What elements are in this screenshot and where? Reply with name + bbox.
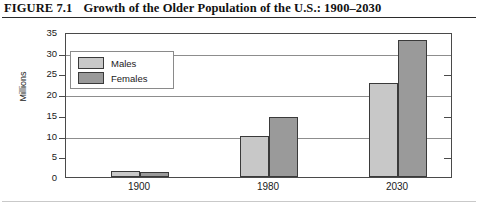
axis-tick	[59, 96, 66, 97]
y-axis-title: Millions	[19, 57, 28, 117]
plot-area: MalesFemales	[65, 33, 452, 178]
figure-header: FIGURE 7.1Growth of the Older Population…	[0, 0, 478, 20]
bar-males-1900	[111, 171, 140, 177]
axis-tick	[59, 158, 66, 159]
bar-females-2030	[398, 40, 427, 177]
y-axis-tick-label: 5	[27, 152, 57, 162]
y-axis-tick-label: 30	[27, 49, 57, 59]
bar-females-1980	[269, 117, 298, 177]
bar-males-2030	[369, 83, 398, 177]
axis-tick	[59, 138, 66, 139]
x-axis-tick-label-1900: 1900	[109, 181, 169, 193]
figure-label: FIGURE 7.1	[4, 1, 72, 15]
y-axis-tick-label: 10	[27, 132, 57, 142]
y-axis-tick-label: 0	[27, 173, 57, 183]
legend-swatch-females	[78, 72, 104, 84]
axis-tick	[59, 55, 66, 56]
page-bottom-rule	[2, 201, 476, 202]
x-axis-tick-label-1980: 1980	[238, 181, 298, 193]
chart-legend: MalesFemales	[70, 51, 174, 89]
axis-tick	[444, 117, 451, 118]
bar-females-1900	[140, 172, 169, 177]
legend-swatch-males	[78, 57, 104, 69]
axis-tick	[444, 75, 451, 76]
title-divider	[2, 17, 476, 18]
y-axis-tick-label: 15	[27, 111, 57, 121]
figure-title-text: Growth of the Older Population of the U.…	[83, 1, 381, 15]
bar-males-1980	[240, 136, 269, 177]
x-axis-tick-label-2030: 2030	[367, 181, 427, 193]
y-axis-tick-label: 20	[27, 90, 57, 100]
y-axis-tick-label: 35	[27, 28, 57, 38]
legend-label: Females	[111, 73, 147, 84]
legend-label: Males	[111, 58, 136, 69]
page-title: FIGURE 7.1Growth of the Older Population…	[4, 1, 381, 16]
bar-chart: 35302520151050 Millions MalesFemales 190…	[0, 20, 478, 210]
axis-tick	[59, 117, 66, 118]
axis-tick	[59, 75, 66, 76]
x-axis-labels: 190019802030	[65, 181, 452, 197]
y-axis-labels: 35302520151050	[27, 33, 57, 178]
y-axis-tick-label: 25	[27, 69, 57, 79]
axis-tick	[444, 158, 451, 159]
